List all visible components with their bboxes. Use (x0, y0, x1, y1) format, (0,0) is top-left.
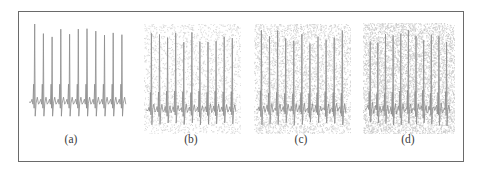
caption-b: (b) (171, 133, 211, 145)
caption-c: (c) (281, 133, 321, 145)
caption-d: (d) (388, 133, 428, 145)
caption-a: (a) (51, 133, 91, 145)
ecg-panel-c (254, 24, 351, 134)
ecg-panel-b (144, 24, 241, 134)
ecg-panel-d (363, 23, 455, 134)
ecg-panel-a (27, 18, 131, 126)
